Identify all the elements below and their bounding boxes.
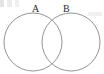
set-label-b: B [63,4,70,14]
set-label-a: A [32,4,39,14]
venn-diagram-figure: A B [0,0,104,74]
venn-canvas [0,0,104,74]
venn-circle-a [4,13,62,71]
venn-circle-b [42,13,100,71]
